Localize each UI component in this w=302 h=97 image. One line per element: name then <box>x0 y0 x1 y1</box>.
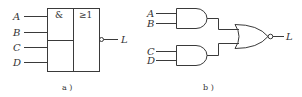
output-label: L <box>285 31 293 42</box>
or-symbol: ≥1 <box>79 10 92 20</box>
diagram-b: A B C D L b ) <box>146 8 293 92</box>
wire-and2-to-nor <box>207 44 239 56</box>
input-label-c: C <box>13 42 21 53</box>
and-gate-2 <box>177 46 208 66</box>
output-label: L <box>120 34 128 45</box>
input-label-a: A <box>12 11 20 22</box>
input-label-b: B <box>12 27 20 38</box>
inversion-bubble <box>268 34 273 39</box>
caption-b: b ) <box>203 83 214 92</box>
diagram-a: & ≥1 A B C D L a ) <box>12 9 128 93</box>
and-symbol: & <box>55 10 63 20</box>
input-label-d: D <box>146 55 155 66</box>
logic-diagrams: & ≥1 A B C D L a ) A B C D L <box>0 0 302 97</box>
caption-a: a ) <box>62 83 72 92</box>
input-label-b: B <box>146 18 154 29</box>
input-label-d: D <box>12 57 21 68</box>
nor-gate <box>235 25 268 49</box>
and-gate-1 <box>177 9 208 29</box>
inversion-bubble <box>100 38 104 42</box>
